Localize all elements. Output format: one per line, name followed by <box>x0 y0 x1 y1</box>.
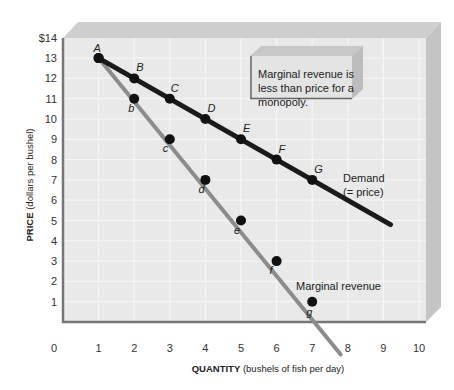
data-point <box>236 134 246 144</box>
point-label: A <box>93 42 101 54</box>
y-tick-label: 2 <box>51 275 57 287</box>
x-tick-label: 8 <box>345 342 351 354</box>
y-tick-label: 4 <box>51 235 57 247</box>
box-right-face <box>426 22 441 322</box>
x-tick-label: 3 <box>167 342 173 354</box>
y-tick-label: 10 <box>45 113 57 125</box>
point-label: e <box>234 224 240 236</box>
x-tick-label: 5 <box>238 342 244 354</box>
data-point <box>165 94 175 104</box>
demand-label-line2: (= price) <box>343 186 384 198</box>
x-tick-label: 7 <box>309 342 315 354</box>
box-top-face <box>63 22 441 38</box>
x-tick-labels: 012345678910 <box>51 342 425 354</box>
data-point <box>129 73 139 83</box>
chart: 012345678910 12345678910111213$14 bcdefg… <box>0 0 454 390</box>
point-label: c <box>163 142 169 154</box>
y-tick-label: 8 <box>51 154 57 166</box>
annotation-box-top <box>250 46 363 56</box>
x-tick-label: 2 <box>131 342 137 354</box>
x-tick-label: 1 <box>96 342 102 354</box>
y-axis-title: PRICE (dollars per bushel) <box>24 128 35 241</box>
x-axis-title: QUANTITY (bushels of fish per day) <box>192 363 345 374</box>
point-label: b <box>128 102 134 114</box>
y-tick-label: 12 <box>45 72 57 84</box>
y-tick-label: 1 <box>51 296 57 308</box>
y-tick-label: $14 <box>39 32 57 44</box>
point-label: g <box>306 306 313 318</box>
point-label: C <box>171 82 179 94</box>
annotation-text: Marginal revenue is less than price for … <box>258 67 360 109</box>
data-point <box>94 53 104 63</box>
point-label: G <box>314 163 323 175</box>
demand-label-line1: Demand <box>343 172 385 184</box>
x-tick-label: 0 <box>51 342 57 354</box>
y-tick-label: 3 <box>51 255 57 267</box>
y-tick-label: 11 <box>46 93 57 105</box>
point-label: d <box>198 183 205 195</box>
point-label: D <box>207 102 215 114</box>
x-tick-label: 4 <box>202 342 208 354</box>
data-point <box>307 175 317 185</box>
x-tick-label: 6 <box>274 342 280 354</box>
y-tick-label: 9 <box>51 133 57 145</box>
point-label: B <box>136 61 143 73</box>
y-tick-label: 7 <box>51 174 57 186</box>
data-point <box>272 155 282 165</box>
x-tick-label: 10 <box>413 342 425 354</box>
y-tick-label: 5 <box>51 215 57 227</box>
y-tick-label: 6 <box>51 194 57 206</box>
data-point <box>200 114 210 124</box>
y-tick-labels: 12345678910111213$14 <box>39 32 57 308</box>
y-tick-label: 13 <box>45 52 57 64</box>
point-label: E <box>243 122 251 134</box>
data-point <box>272 256 282 266</box>
x-tick-label: 9 <box>380 342 386 354</box>
marginal-revenue-label: Marginal revenue <box>296 280 381 292</box>
